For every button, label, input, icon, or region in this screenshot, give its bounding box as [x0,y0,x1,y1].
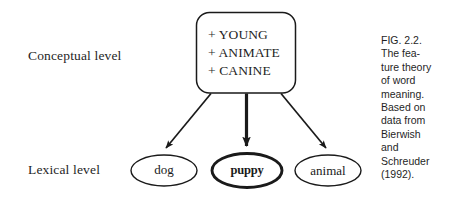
caption-line: of word [381,74,451,87]
node-label-dog: dog [131,162,197,178]
lexical-level-label: Lexical level [28,162,100,178]
caption-line: Schreuder [381,155,451,168]
feature-item-young: + YOUNG [208,26,294,44]
caption-line: The fea- [381,47,451,60]
node-label-puppy: puppy [212,163,282,178]
caption-line: ture theory [381,61,451,74]
feature-item-canine: + CANINE [208,62,294,80]
caption-line: Based on [381,101,451,114]
caption-line: and [381,141,451,154]
figure-caption: FIG. 2.2. The fea- ture theory of word m… [381,34,451,181]
caption-line: (1992). [381,168,451,181]
caption-line: Bierwish [381,128,451,141]
caption-line: meaning. [381,88,451,101]
node-label-animal: animal [295,163,361,179]
feature-theory-figure: Conceptual level Lexical level + YOUNG +… [0,0,453,204]
conceptual-level-label: Conceptual level [28,48,122,64]
caption-line: data from [381,114,451,127]
caption-line: FIG. 2.2. [381,34,451,47]
arrow-to-dog [166,94,211,149]
feature-item-animate: + ANIMATE [208,44,294,62]
concept-box-feature-list: + YOUNG + ANIMATE + CANINE [208,26,294,80]
arrow-to-animal [281,94,326,149]
